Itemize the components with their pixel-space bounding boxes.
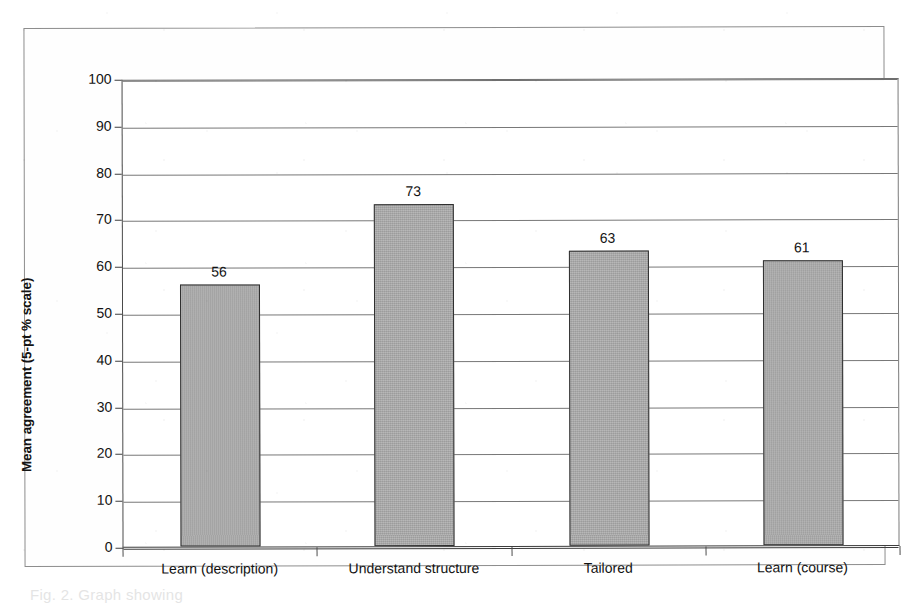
- bar-value-label: 56: [211, 263, 227, 279]
- y-axis-tick-label: 0: [67, 539, 113, 555]
- x-axis-tick-mark: [705, 546, 706, 555]
- bar-value-label: 61: [794, 239, 810, 255]
- x-axis-tick-mark: [900, 546, 901, 555]
- gridline-group: [123, 79, 898, 81]
- x-axis-tick-group: Learn (description)Understand structureT…: [24, 27, 883, 29]
- bar: [763, 260, 844, 546]
- y-axis-tick-label: 60: [66, 258, 112, 274]
- gridline: [123, 79, 898, 82]
- gridline: [123, 173, 898, 176]
- x-axis-tick-mark: [123, 548, 124, 557]
- y-axis-tick-label: 40: [66, 352, 112, 368]
- plot-area: [122, 78, 900, 548]
- gridline: [123, 126, 898, 129]
- caption-remnant: Fig. 2. Graph showing: [30, 586, 183, 603]
- data-label-group: 56736361: [24, 27, 883, 29]
- bar: [569, 251, 650, 546]
- bar-value-label: 63: [600, 230, 616, 246]
- y-axis-tick-label: 10: [66, 492, 112, 508]
- x-axis-tick-label: Tailored: [584, 560, 633, 576]
- y-axis-tick-label: 30: [66, 398, 112, 414]
- x-axis-tick-mark: [317, 547, 318, 556]
- y-axis-tick-label: 90: [66, 118, 112, 134]
- bar: [180, 284, 261, 546]
- figure-frame: Mean agreement (5-pt % scale) 1009080706…: [23, 26, 885, 567]
- y-axis-tick-group: 1009080706050403020100: [24, 27, 883, 29]
- y-axis-title: Mean agreement (5-pt % scale): [19, 225, 35, 525]
- x-axis-tick-label: Learn (course): [757, 559, 848, 575]
- x-axis-tick-label: Understand structure: [349, 560, 480, 576]
- y-axis-tick-label: 50: [66, 305, 112, 321]
- y-axis-tick-label: 70: [66, 211, 112, 227]
- y-axis-tick-label: 20: [66, 445, 112, 461]
- bar: [374, 204, 455, 546]
- y-axis-tick-label: 100: [66, 71, 112, 87]
- bar-value-label: 73: [405, 183, 421, 199]
- x-axis-tick-mark: [511, 547, 512, 556]
- x-axis-tick-label: Learn (description): [161, 560, 278, 576]
- gridline: [123, 219, 898, 222]
- y-axis-tick-label: 80: [66, 164, 112, 180]
